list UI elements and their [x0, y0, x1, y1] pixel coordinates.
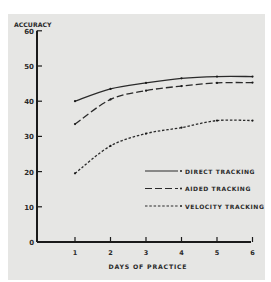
- legend-label: VELOCITY TRACKING: [185, 203, 264, 210]
- x-tick-label: 3: [144, 249, 149, 257]
- x-tick-label: 2: [108, 249, 113, 257]
- y-axis-label: ACCURACY: [14, 21, 52, 28]
- data-point: [145, 82, 147, 84]
- data-point: [74, 123, 76, 125]
- data-point: [74, 100, 76, 102]
- legend-label: AIDED TRACKING: [185, 185, 251, 192]
- series-line-1: [75, 83, 253, 125]
- x-axis-label: DAYS OF PRACTICE: [109, 263, 188, 270]
- y-tick-label: 60: [24, 28, 34, 36]
- legend-label: DIRECT TRACKING: [185, 168, 255, 175]
- data-point: [145, 90, 147, 92]
- data-point: [109, 98, 111, 100]
- data-point: [180, 127, 182, 129]
- y-tick-label: 30: [24, 133, 34, 141]
- x-tick-label: 1: [73, 249, 78, 257]
- y-tick-label: 20: [24, 169, 34, 177]
- data-point: [180, 77, 182, 79]
- data-point: [109, 145, 111, 147]
- data-point: [216, 82, 218, 84]
- legend-marker: [180, 205, 182, 207]
- legend-marker: [180, 170, 182, 172]
- series-line-0: [75, 76, 253, 101]
- y-tick-label: 0: [29, 239, 34, 247]
- data-point: [180, 85, 182, 87]
- data-point: [74, 172, 76, 174]
- data-point: [251, 75, 253, 77]
- x-tick-label: 5: [215, 249, 220, 257]
- legend-marker: [180, 188, 182, 190]
- data-point: [216, 75, 218, 77]
- data-point: [251, 119, 253, 121]
- series-line-2: [75, 120, 253, 173]
- data-point: [216, 119, 218, 121]
- line-chart: 0102030405060123456ACCURACYDAYS OF PRACT…: [0, 0, 271, 282]
- y-tick-label: 50: [24, 63, 34, 71]
- x-tick-label: 6: [250, 249, 255, 257]
- data-point: [145, 132, 147, 134]
- data-point: [109, 88, 111, 90]
- x-tick-label: 4: [179, 249, 184, 257]
- y-tick-label: 40: [24, 98, 34, 106]
- y-tick-label: 10: [24, 204, 34, 212]
- data-point: [251, 81, 253, 83]
